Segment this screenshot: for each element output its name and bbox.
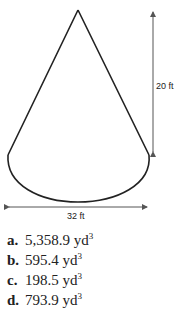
option-value: 5,358.9 yd: [25, 232, 89, 248]
option-d[interactable]: d.793.9 yd3: [7, 290, 93, 310]
option-letter: d.: [7, 290, 25, 310]
cone-drawing: [0, 0, 181, 225]
option-b[interactable]: b.595.4 yd3: [7, 250, 93, 270]
option-c[interactable]: c.198.5 yd3: [7, 270, 93, 290]
option-exponent: 3: [89, 231, 94, 241]
option-exponent: 3: [78, 271, 83, 281]
cone-figure: 20 ft 32 ft: [0, 0, 181, 225]
option-letter: b.: [7, 250, 25, 270]
option-value: 198.5 yd: [25, 272, 78, 288]
option-exponent: 3: [78, 291, 83, 301]
cone-outline: [8, 10, 149, 155]
option-letter: c.: [7, 270, 25, 290]
height-label: 20 ft: [156, 81, 174, 91]
diameter-label: 32 ft: [67, 211, 85, 221]
cone-base-arc: [8, 155, 149, 202]
answer-options: a.5,358.9 yd3 b.595.4 yd3 c.198.5 yd3 d.…: [7, 230, 93, 310]
option-value: 595.4 yd: [25, 252, 78, 268]
option-value: 793.9 yd: [25, 292, 78, 308]
option-letter: a.: [7, 230, 25, 250]
option-exponent: 3: [78, 251, 83, 261]
option-a[interactable]: a.5,358.9 yd3: [7, 230, 93, 250]
